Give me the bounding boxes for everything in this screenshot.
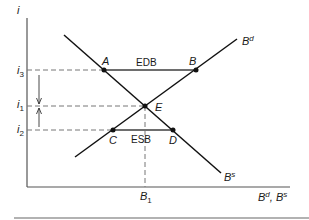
point-e-label: E <box>155 101 163 113</box>
point-e <box>143 104 148 109</box>
point-c-label: C <box>109 134 117 146</box>
down-arrow-icon <box>37 75 42 104</box>
esb-label: ESB <box>131 134 151 145</box>
tick-i2: i2 <box>17 123 24 138</box>
y-axis-label: i <box>17 4 20 16</box>
up-arrow-icon <box>37 108 42 127</box>
edb-label: EDB <box>136 57 157 68</box>
point-a-label: A <box>101 55 109 67</box>
point-a <box>102 68 107 73</box>
point-b <box>194 68 199 73</box>
point-c <box>111 128 116 133</box>
point-b-label: B <box>189 55 196 67</box>
point-d <box>171 128 176 133</box>
tick-b1: B1 <box>140 190 152 205</box>
tick-i1: i1 <box>17 98 24 113</box>
bond-market-diagram: i i3 i1 i2 B1 Bd, Bs EDB ESB Bd Bs A B E… <box>0 0 309 220</box>
curve-bd-label: Bd <box>242 34 254 47</box>
point-d-label: D <box>169 134 177 146</box>
x-axis-label: Bd, Bs <box>258 190 287 203</box>
tick-i3: i3 <box>17 64 24 79</box>
curve-bs <box>64 35 221 173</box>
curve-bs-label: Bs <box>224 170 235 183</box>
